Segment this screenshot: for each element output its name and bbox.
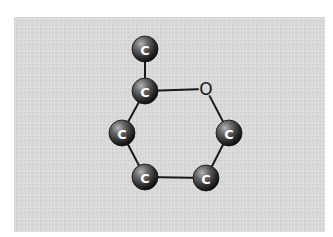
atom-label: C — [140, 43, 150, 58]
atom-c6: C — [216, 120, 242, 146]
molecule-structure: CCOCCCC — [0, 0, 333, 237]
diagram-canvas: CCOCCCC — [0, 0, 333, 237]
atom-c5: C — [193, 165, 219, 191]
atom-c_methyl: C — [132, 36, 158, 62]
bonds-layer — [122, 49, 229, 178]
atom-o1: O — [199, 79, 212, 99]
atom-c3: C — [109, 120, 135, 146]
atom-label: C — [140, 85, 150, 100]
atom-c4: C — [132, 164, 158, 190]
atom-label: O — [199, 79, 212, 99]
atom-label: C — [201, 172, 211, 187]
atom-label: C — [140, 171, 150, 186]
atom-label: C — [224, 127, 234, 142]
atom-c2: C — [132, 78, 158, 104]
atom-label: C — [117, 127, 127, 142]
atoms-layer: CCOCCCC — [109, 36, 242, 191]
